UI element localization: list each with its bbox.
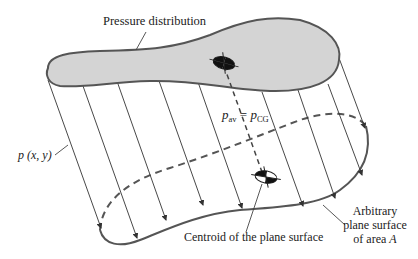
p-cg-subscript: CG bbox=[257, 114, 269, 124]
label-surface-line3: of area A bbox=[353, 232, 397, 246]
pressure-diagram: Pressure distribution p (x, y) pav = pCG… bbox=[0, 0, 418, 259]
label-pressure-function: p (x, y) bbox=[17, 148, 52, 162]
surface-area-prefix: of area bbox=[353, 232, 389, 246]
surface-area-variable: A bbox=[388, 232, 397, 246]
leader-pressure-distribution bbox=[136, 32, 146, 50]
centroid-symbol-bottom bbox=[249, 165, 282, 190]
label-surface-line2: plane surface bbox=[343, 218, 407, 232]
label-pressure-distribution: Pressure distribution bbox=[103, 14, 207, 28]
equals-sign: = bbox=[237, 107, 251, 122]
pressure-distribution-surface bbox=[47, 18, 340, 91]
label-pav-equals-pcg: pav = pCG bbox=[221, 107, 269, 124]
label-centroid: Centroid of the plane surface bbox=[184, 230, 323, 244]
label-surface-line1: Arbitrary bbox=[353, 204, 398, 218]
leader-plane-surface bbox=[323, 205, 345, 225]
leader-pressure-function bbox=[55, 145, 68, 155]
